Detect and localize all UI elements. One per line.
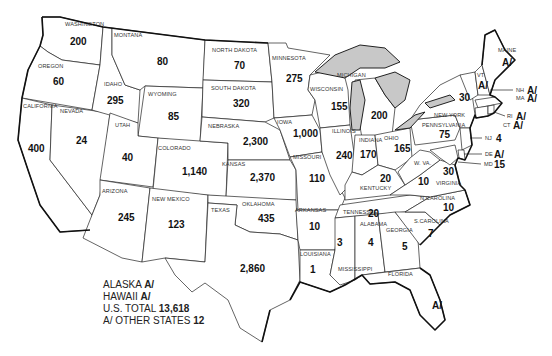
value-md: 15 [494,159,506,170]
label-north-carolina: N.CAROLINA [420,195,455,201]
state-florida[interactable] [362,268,445,330]
label-illinois: ILLINOIS [332,128,356,134]
label-alabama: ALABAMA [360,221,387,227]
legend-hawaii: HAWAII A/ [103,291,204,303]
label-nebraska: NEBRASKA [208,123,239,129]
value-colorado: 1,140 [182,166,207,177]
value-pennsylvania: 75 [439,129,451,140]
label-louisiana: LOUISIANA [300,251,331,257]
value-ct: A/ [513,120,523,131]
legend-alaska: ALASKA A/ [103,279,204,291]
value-wisconsin: 155 [331,101,348,112]
label-ma: MA [516,95,525,101]
value-california: 400 [28,143,45,154]
label-arkansas: ARKANSAS [295,207,326,213]
label-california: CALIFORNIA [23,103,58,109]
label-indiana: INDIANA [359,137,383,143]
value-arkansas: 10 [309,221,321,232]
label-pennsylvania: PENNSYLVANIA [422,122,465,128]
value-washington: 200 [70,36,87,47]
label-montana: MONTANA [114,32,142,38]
value-iowa: 1,000 [293,128,318,139]
value-north-carolina: 10 [443,202,455,213]
label-kentucky: KENTUCKY [360,185,391,191]
value-alabama: 4 [368,237,374,248]
value-nebraska: 2,300 [243,136,268,147]
label-minnesota: MINNESOTA [272,55,306,61]
label-iowa: IOWA [277,119,292,125]
label-new-york: NEW YORK [434,112,465,118]
value-indiana: 170 [360,149,377,160]
value-texas: 2,860 [240,263,265,274]
value-nevada: 24 [76,135,88,146]
label-florida: FLORIDA [388,271,413,277]
value-west-virginia: 10 [418,176,430,187]
value-vermont: A/ [478,80,488,91]
label-utah: UTAH [115,122,130,128]
label-oregon: OREGON [38,63,63,69]
map-legend: ALASKA A/ HAWAII A/ U.S. TOTAL 13,618 A/… [103,279,204,327]
value-south-dakota: 320 [233,98,250,109]
label-mississippi: MISSISSIPPI [338,266,373,272]
value-mississippi: 3 [337,237,343,248]
label-vermont: VT [477,72,485,78]
label-ri: RI [507,113,513,119]
value-georgia: 5 [402,241,408,252]
value-oklahoma: 435 [258,213,275,224]
value-new-mexico: 123 [168,219,185,230]
label-michigan: MICHIGAN [337,72,366,78]
label-ct: CT [503,122,511,128]
value-ohio: 165 [394,143,411,154]
value-north-dakota: 70 [234,60,246,71]
us-map: WASHINGTON OREGON CALIFORNIA NEVADA IDAH… [0,0,552,356]
label-oklahoma: OKLAHOMA [242,201,275,207]
value-illinois: 240 [336,150,353,161]
label-missouri: MISSOURI [293,154,322,160]
value-montana: 80 [157,56,169,67]
label-new-mexico: NEW MEXICO [152,196,190,202]
label-ohio: OHIO [384,135,399,141]
value-louisiana: 1 [310,264,316,275]
label-md: MD [484,161,493,167]
label-kansas: KANSAS [222,161,245,167]
value-idaho: 295 [107,95,124,106]
value-ma: A/ [527,93,537,104]
label-texas: TEXAS [211,207,230,213]
value-arizona: 245 [118,212,135,223]
value-kansas: 2,370 [250,172,275,183]
label-south-dakota: SOUTH DAKOTA [211,85,256,91]
value-minnesota: 275 [286,73,303,84]
label-wisconsin: WISCONSIN [310,86,343,92]
label-georgia: GEORGIA [386,227,413,233]
value-nj: 4 [496,133,502,144]
label-virginia: VIRGINIA [436,180,462,186]
label-nj: NJ [485,135,492,141]
label-nevada: NEVADA [60,108,83,114]
legend-us-total: U.S. TOTAL 13,618 [103,303,204,315]
label-colorado: COLORADO [158,145,191,151]
value-new-york: 30 [459,92,471,103]
value-wyoming: 85 [168,111,180,122]
value-oregon: 60 [53,76,65,87]
legend-other-states: A/ OTHER STATES 12 [103,315,204,327]
value-utah: 40 [122,152,134,163]
label-north-dakota: NORTH DAKOTA [212,47,257,53]
value-tennessee: 20 [368,208,380,219]
label-nh: NH [516,87,524,93]
value-kentucky: 20 [380,173,392,184]
label-idaho: IDAHO [104,81,123,87]
value-missouri: 110 [309,173,326,184]
label-arizona: ARIZONA [102,188,128,194]
label-west-virginia: W. VA. [414,160,432,166]
value-maine: A/ [502,57,512,68]
label-wyoming: WYOMING [148,91,177,97]
label-de: DE [485,151,493,157]
value-michigan: 200 [371,110,388,121]
value-virginia: 30 [443,166,455,177]
